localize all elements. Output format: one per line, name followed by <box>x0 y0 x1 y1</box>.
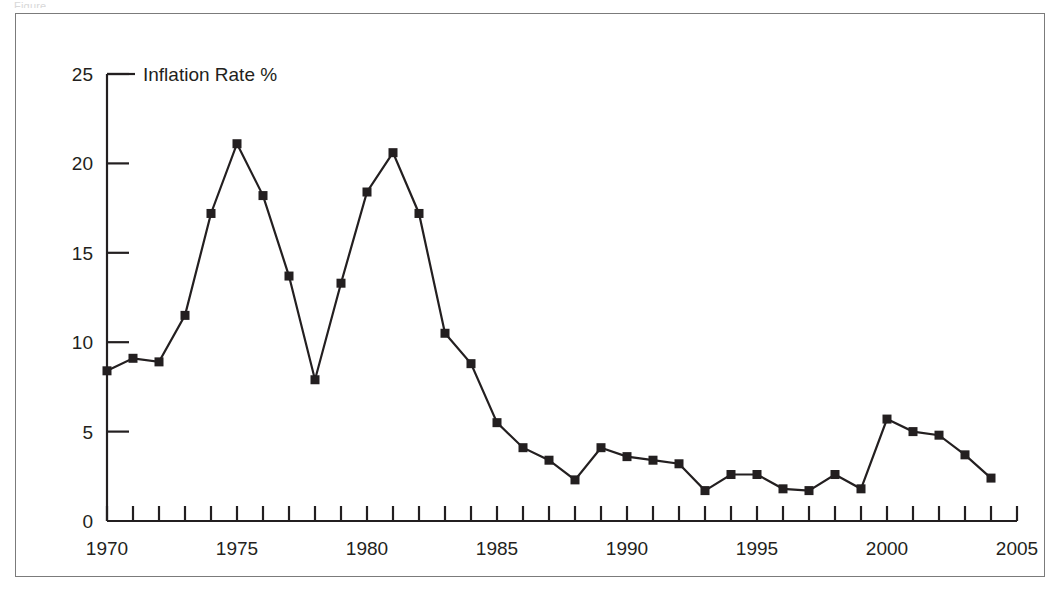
data-point-marker <box>831 470 840 479</box>
figure-root: Figure 051015202519701975198019851990199… <box>0 0 1060 600</box>
inflation-line-chart: 0510152025197019751980198519901995200020… <box>0 0 1060 600</box>
x-tick-label: 2005 <box>996 538 1038 559</box>
data-point-marker <box>259 191 268 200</box>
x-tick-label: 1990 <box>606 538 648 559</box>
data-point-marker <box>415 209 424 218</box>
data-point-marker <box>649 456 658 465</box>
x-tick-label: 1980 <box>346 538 388 559</box>
x-tick-label: 1985 <box>476 538 518 559</box>
data-point-marker <box>129 354 138 363</box>
data-point-marker <box>103 366 112 375</box>
data-point-marker <box>285 272 294 281</box>
y-tick-label: 25 <box>72 64 93 85</box>
data-point-marker <box>987 474 996 483</box>
x-tick-label: 1970 <box>86 538 128 559</box>
y-tick-label: 5 <box>82 422 93 443</box>
data-point-marker <box>181 311 190 320</box>
data-point-marker <box>155 357 164 366</box>
data-point-marker <box>909 427 918 436</box>
data-point-marker <box>571 475 580 484</box>
data-point-marker <box>441 329 450 338</box>
data-point-marker <box>597 443 606 452</box>
data-point-marker <box>493 418 502 427</box>
data-point-marker <box>883 415 892 424</box>
data-point-marker <box>961 450 970 459</box>
data-point-marker <box>207 209 216 218</box>
y-tick-label: 20 <box>72 153 93 174</box>
data-point-marker <box>753 470 762 479</box>
data-point-marker <box>727 470 736 479</box>
data-point-marker <box>337 279 346 288</box>
data-point-marker <box>467 359 476 368</box>
x-tick-label: 1995 <box>736 538 778 559</box>
x-tick-label: 2000 <box>866 538 908 559</box>
data-point-marker <box>779 484 788 493</box>
data-point-marker <box>857 484 866 493</box>
data-point-marker <box>233 139 242 148</box>
y-tick-label: 15 <box>72 243 93 264</box>
data-point-marker <box>701 486 710 495</box>
data-line <box>107 144 991 491</box>
data-point-marker <box>311 375 320 384</box>
x-tick-label: 1975 <box>216 538 258 559</box>
chart-plot-area: 0510152025197019751980198519901995200020… <box>0 0 1060 600</box>
data-point-marker <box>805 486 814 495</box>
y-tick-label: 10 <box>72 332 93 353</box>
data-point-marker <box>545 456 554 465</box>
data-point-marker <box>363 188 372 197</box>
data-point-marker <box>389 148 398 157</box>
data-point-marker <box>519 443 528 452</box>
data-point-marker <box>675 459 684 468</box>
data-point-marker <box>935 431 944 440</box>
y-tick-label: 0 <box>82 511 93 532</box>
data-point-marker <box>623 452 632 461</box>
series-label: Inflation Rate % <box>143 64 277 85</box>
